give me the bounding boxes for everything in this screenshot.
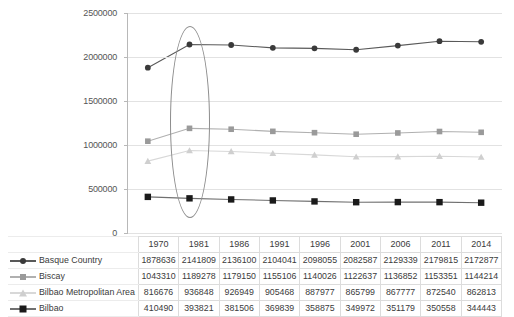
gridline (127, 233, 502, 234)
table-cell: 1144214 (461, 269, 501, 285)
table-row: Bilbao Metropolitan Area8166769368489269… (8, 285, 502, 301)
series-layer (127, 13, 502, 234)
data-point (395, 199, 401, 205)
data-point (312, 130, 318, 136)
table-cell: 872540 (421, 285, 461, 301)
data-point (478, 130, 484, 136)
legend-label: Basque Country (39, 253, 102, 268)
gridline (127, 189, 502, 190)
data-point (270, 45, 276, 51)
table-column-header: 2001 (340, 237, 380, 253)
table-cell: 905468 (259, 285, 299, 301)
data-point (353, 131, 359, 137)
y-axis-tick (124, 233, 128, 234)
table-cell: 2179815 (421, 253, 461, 269)
data-point (436, 199, 442, 205)
table-cell: 867777 (380, 285, 420, 301)
table-row: Biscay1043310118927811791501155106114002… (8, 269, 502, 285)
data-point (437, 38, 443, 44)
legend-entry: Basque Country (10, 253, 135, 268)
data-point (187, 126, 193, 132)
data-table: 197019811986199119962001200620112014 Bas… (8, 236, 502, 317)
legend-key (10, 287, 36, 298)
table-row: Basque Country18786362141809213610021040… (8, 253, 502, 269)
table-cell: 1179150 (219, 269, 259, 285)
table-column-header: 1986 (219, 237, 259, 253)
table-cell: 926949 (219, 285, 259, 301)
y-axis-tick-label: 2500000 (83, 8, 117, 18)
legend-label: Bilbao Metropolitan Area (39, 285, 135, 300)
plot-area (127, 13, 502, 233)
table-column-header: 1996 (300, 237, 340, 253)
table-header: 197019811986199119962001200620112014 (8, 237, 502, 253)
table-row: Bilbao4104903938213815063698393588753499… (8, 301, 502, 317)
y-axis-tick (124, 57, 128, 58)
y-axis-tick (124, 145, 128, 146)
table-body: Basque Country18786362141809213610021040… (8, 253, 502, 317)
table-column-header: 1991 (259, 237, 299, 253)
data-point (437, 129, 443, 135)
table-cell: 1189278 (179, 269, 219, 285)
y-axis-tick (124, 101, 128, 102)
gridline (127, 57, 502, 58)
data-point (145, 138, 151, 144)
data-point (395, 130, 401, 136)
table-cell: 381506 (219, 301, 259, 317)
table-cell: 350558 (421, 301, 461, 317)
data-point (478, 199, 484, 205)
table-cell: 358875 (300, 301, 340, 317)
legend-marker-triangle-icon (19, 289, 27, 296)
table-cell: 2082587 (340, 253, 380, 269)
table-cell: 887977 (300, 285, 340, 301)
legend-label: Biscay (39, 269, 65, 284)
legend-label: Bilbao (39, 301, 63, 316)
table-corner-cell (8, 237, 138, 253)
y-axis-tick-label: 500000 (88, 184, 117, 194)
table-cell: 410490 (138, 301, 178, 317)
legend-marker-circle-icon (20, 258, 26, 264)
y-axis-tick (124, 13, 128, 14)
table-cell: 369839 (259, 301, 299, 317)
table-cell: 344443 (461, 301, 501, 317)
table-header-row: 197019811986199119962001200620112014 (8, 237, 502, 253)
y-axis-tick-label: 2000000 (83, 52, 117, 62)
y-axis-tick-label: 1500000 (83, 96, 117, 106)
data-point (228, 126, 234, 132)
legend-entry: Bilbao (10, 301, 135, 316)
gridline (127, 13, 502, 14)
table-cell: 2129339 (380, 253, 420, 269)
table-cell: 2098055 (300, 253, 340, 269)
series-4 (145, 194, 485, 206)
table-cell: 865799 (340, 285, 380, 301)
table-column-header: 2006 (380, 237, 420, 253)
data-point (395, 43, 401, 49)
data-point (270, 197, 276, 203)
data-point (187, 42, 193, 48)
legend-marker-square-icon (20, 305, 27, 312)
table-cell: 393821 (179, 301, 219, 317)
table-column-header: 1981 (179, 237, 219, 253)
table-cell: 351179 (380, 301, 420, 317)
legend-marker-square-icon (20, 274, 26, 280)
y-axis-tick (124, 189, 128, 190)
legend-key (10, 303, 36, 314)
series-line (148, 41, 481, 68)
table-cell: 1155106 (259, 269, 299, 285)
table-row-label: Bilbao Metropolitan Area (8, 285, 138, 301)
legend-entry: Bilbao Metropolitan Area (10, 285, 135, 300)
y-axis-tick-labels: 05000001000000150000020000002500000 (0, 13, 123, 234)
data-point (228, 196, 234, 202)
data-point (145, 65, 151, 71)
table-cell: 862813 (461, 285, 501, 301)
table-cell: 2172877 (461, 253, 501, 269)
table-cell: 2104041 (259, 253, 299, 269)
table-column-header: 1970 (138, 237, 178, 253)
legend-key (10, 271, 36, 282)
series-2 (145, 126, 484, 144)
table-cell: 2136100 (219, 253, 259, 269)
table-cell: 1140026 (300, 269, 340, 285)
data-point (311, 198, 317, 204)
data-point (228, 42, 234, 48)
y-axis-tick-label: 1000000 (83, 140, 117, 150)
table-cell: 816676 (138, 285, 178, 301)
